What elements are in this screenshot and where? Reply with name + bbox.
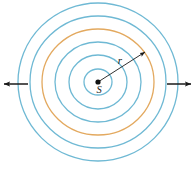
radius-label: r <box>118 54 123 66</box>
figure-container: r S <box>0 0 195 170</box>
wavefront-diagram-svg: r S <box>0 0 195 170</box>
source-point-label: S <box>96 84 102 95</box>
source-point-group: S <box>95 79 102 95</box>
